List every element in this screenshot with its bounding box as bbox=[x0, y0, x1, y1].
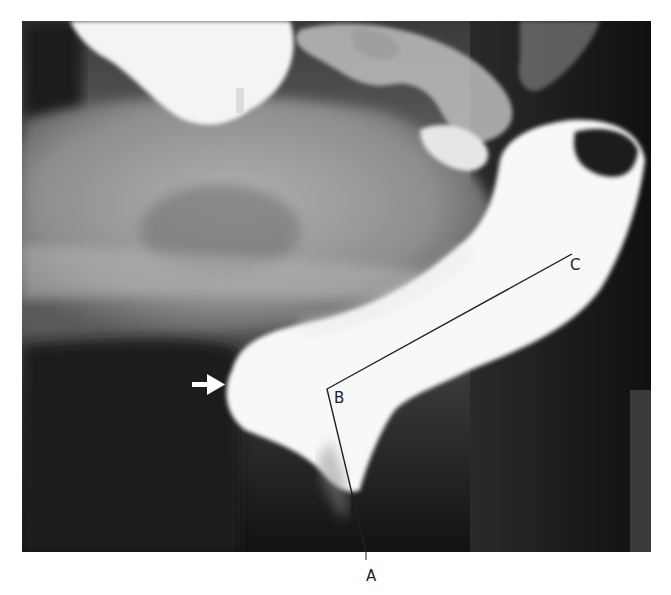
radiograph-figure bbox=[0, 0, 671, 595]
label-b: B bbox=[334, 391, 344, 406]
label-a: A bbox=[366, 569, 376, 584]
label-c: C bbox=[570, 258, 580, 273]
radiograph-image bbox=[22, 21, 651, 552]
